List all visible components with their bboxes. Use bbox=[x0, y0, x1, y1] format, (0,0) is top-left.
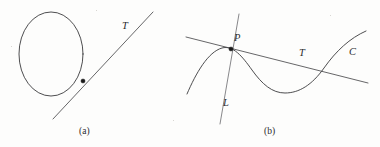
figure-canvas bbox=[0, 0, 380, 147]
scan-speck bbox=[11, 46, 12, 47]
figure-root: T (a) P T C L (b) bbox=[0, 0, 380, 147]
label-curve-C: C bbox=[349, 47, 356, 58]
panel-a-group bbox=[19, 12, 153, 119]
label-point-P: P bbox=[234, 33, 240, 44]
tangent-line-T-a bbox=[53, 12, 153, 119]
curve-C bbox=[187, 31, 366, 94]
caption-panel-a: (a) bbox=[79, 127, 90, 137]
tangent-line-T-b bbox=[186, 37, 368, 83]
scan-speck bbox=[330, 15, 331, 16]
point-P bbox=[229, 47, 233, 51]
point-of-tangency-a bbox=[81, 79, 85, 83]
panel-b-group bbox=[186, 14, 368, 124]
label-line-L: L bbox=[223, 98, 229, 109]
caption-panel-b: (b) bbox=[264, 127, 275, 137]
scan-speck bbox=[96, 10, 97, 11]
label-tangent-T-b: T bbox=[299, 48, 305, 59]
circle bbox=[19, 12, 83, 96]
label-tangent-T-a: T bbox=[122, 21, 128, 32]
scan-speck bbox=[173, 120, 174, 121]
